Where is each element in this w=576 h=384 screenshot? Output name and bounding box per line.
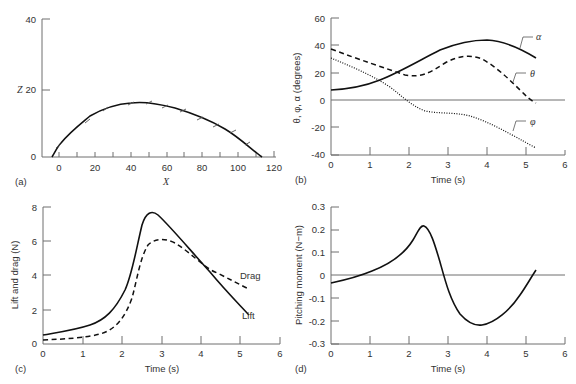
panel-b-ytick: 40	[314, 40, 325, 51]
panel-c-xtick: 2	[119, 348, 124, 359]
panel-b-xtick: 3	[445, 159, 450, 170]
panel-a-xtick: 100	[230, 162, 246, 173]
panel-a-xticks	[59, 151, 274, 157]
panel-b-xlabel: Time (s)	[431, 174, 465, 185]
panel-b-yticks	[331, 18, 339, 155]
panel-d-ytick: -0.3	[309, 338, 325, 349]
panel-b: 60 40 20 0 -20 -40 θ, φ, α (degrees) 0 1…	[291, 13, 568, 185]
panel-d-xtick: 5	[523, 348, 528, 359]
panel-c-xtick: 4	[198, 348, 203, 359]
panel-b-axes	[331, 18, 565, 155]
panel-b-ytick: -20	[311, 122, 325, 133]
panel-d-xtick: 6	[562, 348, 567, 359]
panel-a-axes	[42, 19, 276, 157]
panel-a-label: (a)	[15, 176, 27, 187]
panel-b-ytick: 20	[314, 68, 325, 79]
panel-b-xtick: 5	[523, 159, 528, 170]
panel-c-label: (c)	[15, 363, 26, 374]
orientation-marks	[56, 101, 250, 148]
panel-a-ylabel: Z	[17, 84, 23, 95]
alpha-label: α	[536, 31, 542, 42]
panel-d-xtick: 2	[406, 348, 411, 359]
panel-d-ytick: 0.1	[312, 247, 325, 258]
panel-c-ytick: 6	[32, 236, 37, 247]
figure: 40 20 0 Z 0 20 40 60 80 100 120 X (a) 60…	[0, 0, 576, 384]
lift-curve	[43, 212, 249, 335]
panel-d-xlabel: Time (s)	[431, 363, 465, 374]
panel-c-ytick: 2	[32, 305, 37, 316]
panel-c-xticks	[83, 336, 240, 344]
theta-curve	[331, 49, 536, 103]
panel-c-ytick: 0	[32, 338, 37, 349]
panel-c-ylabel: Lift and drag (N)	[9, 241, 20, 310]
panel-a-xtick: 80	[197, 162, 208, 173]
panel-b-xtick: 0	[328, 159, 333, 170]
panel-b-ytick: 0	[320, 95, 325, 106]
panel-d-xtick: 3	[445, 348, 450, 359]
panel-d-label: (d)	[295, 363, 307, 374]
panel-d-ytick: -0.2	[309, 316, 325, 327]
theta-label: θ	[530, 68, 535, 79]
panel-d-xtick: 4	[484, 348, 489, 359]
panel-b-xtick: 1	[367, 159, 372, 170]
drag-label: Drag	[240, 270, 261, 281]
panel-b-xticks	[370, 147, 526, 155]
panel-b-label: (b)	[295, 174, 307, 185]
lift-label: Lift	[242, 310, 255, 321]
panel-a: 40 20 0 Z 0 20 40 60 80 100 120 X (a)	[15, 14, 282, 187]
panel-b-xtick: 2	[406, 159, 411, 170]
panel-a-xtick: 0	[56, 162, 61, 173]
panel-a-xtick: 20	[90, 162, 101, 173]
alpha-curve	[331, 40, 536, 90]
panel-c-xtick: 6	[277, 348, 282, 359]
phi-curve	[331, 58, 536, 148]
panel-d-ytick: 0.2	[312, 224, 325, 235]
panel-d-ytick: 0	[320, 270, 325, 281]
panel-c-xtick: 5	[237, 348, 242, 359]
panel-a-xtick: 60	[162, 162, 173, 173]
panel-d: 0.3 0.2 0.1 0 -0.1 -0.2 -0.3 Pitching mo…	[293, 201, 568, 374]
panel-c-xlabel: Time (s)	[145, 363, 179, 374]
panel-b-xtick: 4	[484, 159, 489, 170]
panel-c-ytick: 4	[32, 270, 37, 281]
panel-a-ytick: 20	[25, 84, 36, 95]
panel-a-ytick: 40	[25, 14, 36, 25]
panel-a-xlabel: X	[162, 176, 170, 187]
panel-c-xtick: 0	[40, 348, 45, 359]
panel-d-ytick: -0.1	[309, 293, 325, 304]
panel-c-yticks	[43, 207, 51, 310]
panel-c-xtick: 1	[80, 348, 85, 359]
panel-b-xtick: 6	[562, 159, 567, 170]
panel-d-xtick: 1	[367, 348, 372, 359]
panel-a-xtick: 120	[266, 162, 282, 173]
panel-d-ylabel: Pitching moment (N−m)	[293, 225, 304, 325]
panel-b-ylabel: θ, φ, α (degrees)	[291, 53, 302, 124]
trajectory-curve	[52, 102, 262, 157]
pitching-moment-curve	[331, 226, 536, 325]
panel-b-ytick: 60	[314, 13, 325, 24]
panel-c-ytick: 8	[32, 202, 37, 213]
panel-d-xtick: 0	[328, 348, 333, 359]
drag-curve	[43, 239, 249, 340]
panel-c: 8 6 4 2 0 Lift and drag (N) 0 1 2 3 4 5 …	[9, 202, 283, 374]
panel-b-ytick: -40	[311, 149, 325, 160]
panel-d-ytick: 0.3	[312, 201, 325, 212]
panel-a-xtick: 40	[126, 162, 137, 173]
panel-a-yticks	[42, 19, 50, 90]
panel-a-ytick: 0	[31, 151, 36, 162]
phi-label: φ	[530, 116, 536, 127]
panel-d-xticks	[370, 336, 526, 344]
panel-c-xtick: 3	[159, 348, 164, 359]
